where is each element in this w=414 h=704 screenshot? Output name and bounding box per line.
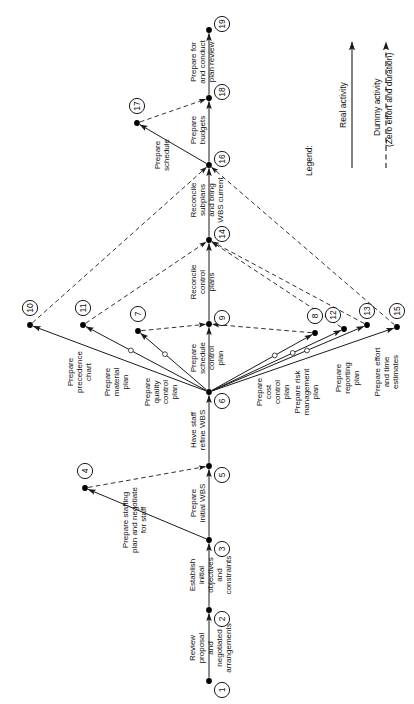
activity-label-line: Prepare (66, 357, 75, 386)
activity-label-18-to-19: Prepare forand conductplan review (189, 39, 216, 83)
activity-label-line: quality (152, 380, 161, 403)
event-node-label-6: 6 (217, 398, 227, 403)
edge-marker-6-to-7 (163, 352, 168, 357)
event-node-dot-11[interactable] (80, 322, 86, 328)
event-node-label-1: 1 (217, 687, 227, 692)
activity-label-line: material (112, 368, 121, 397)
event-node-dot-6[interactable] (206, 389, 212, 395)
event-node-label-17: 17 (132, 101, 142, 111)
activity-label-line: cost (264, 384, 273, 399)
event-node-dot-9[interactable] (206, 321, 212, 327)
activity-label-line: control (161, 380, 170, 404)
event-node-dot-10[interactable] (27, 322, 33, 328)
activity-label-line: estimates (391, 355, 400, 389)
activity-label-line: refine WBS (198, 410, 207, 450)
activity-label-line: precedence (75, 351, 84, 393)
activity-label-line: plan and negotiate (130, 487, 139, 553)
event-node-label-15: 15 (392, 306, 402, 316)
activity-label-line: Prepare (334, 363, 343, 392)
event-node-label-4: 4 (80, 468, 90, 473)
activity-label-line: Have staff (189, 411, 198, 448)
activity-label-line: Prepare (143, 377, 152, 406)
edge-marker-6-to-8 (272, 353, 277, 358)
edge-marker-6-to-13 (305, 348, 310, 353)
activity-label-line: and bring (207, 183, 216, 216)
activity-label-line: budgets (198, 116, 207, 144)
activity-label-2-to-3: Establishinitialobjectivesandconstraints (188, 556, 233, 595)
event-node-dot-8[interactable] (312, 330, 318, 336)
activity-label-9-to-14: Reconcilecontrolplans (189, 264, 216, 300)
legend-real-activity-label: Real activity (338, 81, 348, 128)
event-node-dot-2[interactable] (206, 607, 212, 613)
legend-dummy-activity-label: Dummy activity (372, 78, 382, 136)
edge-marker-6-to-12 (290, 351, 295, 356)
legend: Legend: Real activity Dummy activity (Ze… (304, 42, 394, 176)
activity-label-layer: ReviewproposalandnegotiatedarrangementsE… (66, 39, 400, 672)
activity-label-line: chart (84, 362, 93, 381)
activity-network-svg: 12345678910111213141516171819 Reviewprop… (0, 0, 414, 704)
activity-label-line: Prepare (189, 343, 198, 372)
activity-label-line: and conduct (198, 39, 207, 83)
event-node-dot-18[interactable] (206, 95, 212, 101)
activity-label-14-to-16: Reconcilesubplansand bringWBS current (189, 177, 225, 223)
legend-heading: Legend: (304, 145, 314, 176)
event-node-label-18: 18 (217, 87, 227, 97)
activity-label-line: arrangements (224, 623, 233, 672)
event-node-dot-5[interactable] (206, 463, 212, 469)
event-node-label-12: 12 (328, 310, 338, 320)
event-node-dot-1[interactable] (206, 678, 212, 684)
activity-label-line: management (302, 368, 311, 415)
activity-label-6-to-9: Prepareschedulecontrolplan (189, 341, 225, 374)
event-node-label-10: 10 (25, 303, 35, 313)
activity-edge-7-to-9 (141, 324, 205, 330)
event-node-label-13: 13 (362, 306, 372, 316)
event-node-label-19: 19 (217, 19, 227, 29)
activity-label-16-to-18: Preparebudgets (189, 115, 207, 144)
activity-label-line: Prepare risk (293, 369, 302, 413)
activity-label-line: subplans (198, 184, 207, 216)
event-node-label-3: 3 (217, 546, 227, 551)
event-node-dot-12[interactable] (341, 326, 347, 332)
activity-label-1-to-2: Reviewproposalandnegotiatedarrangements (188, 623, 233, 672)
activity-label-5-to-6: Have staffrefine WBS (189, 410, 207, 450)
activity-label-line: and (215, 568, 224, 581)
activity-label-6-to-8: Preparecostcontrolplan (255, 377, 291, 406)
event-node-dot-15[interactable] (394, 324, 400, 330)
activity-label-line: reporting (343, 362, 352, 394)
activity-label-line: plan (216, 350, 225, 365)
event-node-label-8: 8 (310, 313, 320, 318)
activity-label-6-to-13: Preparereportingplan (334, 362, 361, 394)
activity-label-line: plan (352, 370, 361, 385)
event-node-dot-17[interactable] (134, 120, 140, 126)
activity-label-line: plan (282, 384, 291, 399)
activity-label-line: Prepare for (189, 42, 198, 82)
activity-label-line: control (198, 270, 207, 294)
activity-label-line: Review (188, 635, 197, 661)
event-node-dot-7[interactable] (135, 328, 141, 334)
event-node-dot-16[interactable] (206, 162, 212, 168)
event-node-dot-3[interactable] (206, 537, 212, 543)
activity-label-line: plan review (207, 42, 216, 83)
activity-label-line: WBS current (216, 177, 225, 223)
activity-label-line: negotiated (215, 629, 224, 666)
activity-label-line: Prepare effort (373, 347, 382, 397)
activity-label-6-to-7: Preparequalitycontrolplan (143, 377, 179, 406)
event-node-dot-13[interactable] (364, 322, 370, 328)
event-node-dot-4[interactable] (82, 485, 88, 491)
activity-label-line: initial WBS (198, 484, 207, 523)
activity-label-line: Prepare (189, 115, 198, 144)
activity-label-line: initial (197, 566, 206, 584)
legend-dummy-note: (Zero effort and duration) (384, 52, 394, 147)
activity-label-line: plans (207, 272, 216, 291)
activity-label-line: Reconcile (189, 182, 198, 218)
activity-label-line: Prepare (153, 140, 162, 169)
activity-label-line: Prepare (255, 377, 264, 406)
event-node-dot-19[interactable] (206, 27, 212, 33)
event-node-dot-14[interactable] (206, 237, 212, 243)
activity-label-line: control (207, 346, 216, 370)
activity-label-6-to-15: Prepare effortand timeestimates (373, 347, 400, 397)
event-node-label-5: 5 (217, 472, 227, 477)
activity-label-line: and time (382, 356, 391, 387)
activity-edge-13-to-14 (212, 242, 364, 324)
edge-marker-6-to-11 (128, 348, 133, 353)
